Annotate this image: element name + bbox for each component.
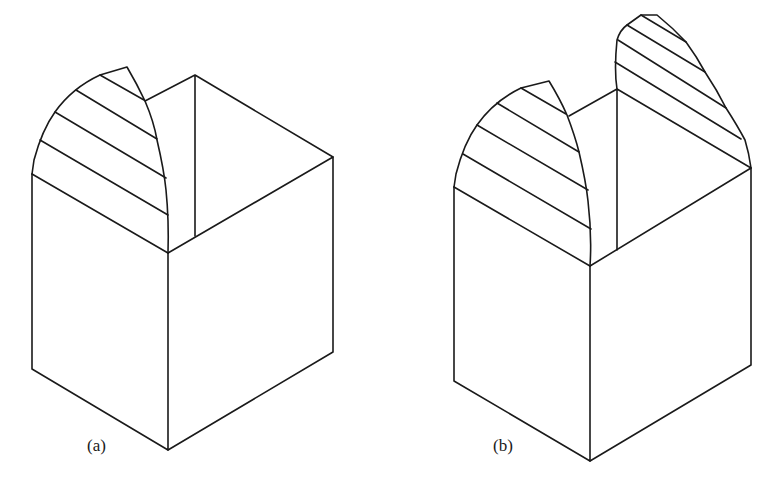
figure-a xyxy=(32,67,333,450)
figure-b xyxy=(454,15,751,461)
figure-b-back-faces xyxy=(569,89,751,250)
figure-b-right-face xyxy=(590,168,751,461)
figure-a-right-face xyxy=(168,157,333,450)
figure-a-label: (a) xyxy=(87,436,106,456)
figure-a-left-face xyxy=(32,174,168,450)
figure-b-left-curved-section xyxy=(454,81,591,266)
figure-b-left-face xyxy=(454,187,590,461)
figure-a-hatching xyxy=(40,75,168,215)
figure-a-left-top-edge xyxy=(32,174,168,253)
diagram-canvas xyxy=(0,0,780,478)
figure-b-left-hatching xyxy=(463,88,591,229)
figure-b-label: (b) xyxy=(493,436,513,456)
figure-b-left-top-edge xyxy=(454,187,590,266)
figure-a-curved-section xyxy=(32,67,168,253)
figure-b-right-curved-section xyxy=(616,15,752,168)
